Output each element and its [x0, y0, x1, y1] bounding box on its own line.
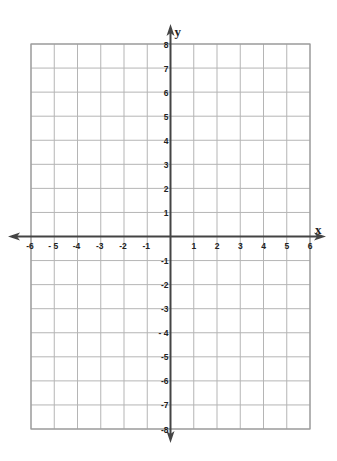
x-tick-label: 2 — [215, 241, 220, 251]
y-tick-label: -7 — [161, 400, 169, 410]
x-axis-label: x — [315, 222, 322, 237]
y-axis-label: y — [175, 24, 182, 39]
x-tick-label: -4 — [73, 241, 81, 251]
y-tick-label: -5 — [161, 352, 169, 362]
y-tick-label: 7 — [164, 64, 169, 74]
x-tick-label: 4 — [261, 241, 266, 251]
y-tick-label: -3 — [161, 304, 169, 314]
coordinate-plane: -6- 5-4-3-2-1123456 87654321-1-2-3- 4-5-… — [0, 0, 337, 461]
y-tick-label: 8 — [164, 40, 169, 50]
x-tick-label: 5 — [284, 241, 289, 251]
x-tick-label: -2 — [119, 241, 127, 251]
y-tick-label: 1 — [164, 208, 169, 218]
x-tick-label: 6 — [308, 241, 313, 251]
y-tick-label: 3 — [164, 160, 169, 170]
y-tick-label: 6 — [164, 88, 169, 98]
x-tick-label: 1 — [191, 241, 196, 251]
y-tick-label: 5 — [164, 112, 169, 122]
x-tick-label: -3 — [96, 241, 104, 251]
y-tick-label: - 4 — [159, 328, 169, 338]
y-tick-label: 2 — [164, 184, 169, 194]
x-tick-label: - 5 — [48, 241, 58, 251]
x-tick-label: -1 — [142, 241, 150, 251]
y-tick-label: -6 — [161, 376, 169, 386]
y-tick-label: 4 — [164, 136, 169, 146]
y-tick-label: -8 — [161, 425, 169, 435]
x-tick-label: 3 — [238, 241, 243, 251]
y-tick-label: -2 — [161, 280, 169, 290]
x-tick-labels: -6- 5-4-3-2-1123456 — [26, 241, 312, 251]
y-tick-label: -1 — [161, 256, 169, 266]
x-tick-label: -6 — [26, 241, 34, 251]
